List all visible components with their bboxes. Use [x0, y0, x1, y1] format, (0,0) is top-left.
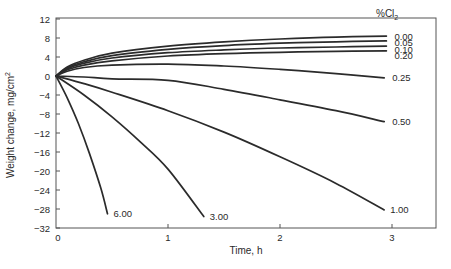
series-line-0-50	[56, 76, 384, 122]
series-label: 1.00	[390, 204, 409, 215]
y-tick-label: −16	[34, 147, 50, 158]
x-tick-label: 2	[277, 232, 282, 243]
y-tick-label: −8	[39, 109, 50, 120]
series-line-1-00	[56, 76, 384, 210]
y-tick-label: −32	[34, 223, 50, 234]
series-label: 0.50	[392, 116, 411, 127]
series-line-6-00	[56, 76, 108, 214]
y-tick-label: −20	[34, 166, 50, 177]
y-tick-label: −24	[34, 185, 50, 196]
series-label: 0.25	[392, 72, 411, 83]
x-axis-label: Time, h	[230, 245, 263, 256]
weight-change-chart: 12840−4−8−12−16−20−24−28−320123 0.000.05…	[0, 0, 451, 269]
y-tick-label: −4	[39, 90, 50, 101]
y-tick-label: 8	[45, 33, 50, 44]
y-tick-label: −12	[34, 128, 50, 139]
series-line-0-25	[56, 64, 384, 78]
y-tick-label: 0	[45, 71, 50, 82]
x-tick-label: 1	[165, 232, 170, 243]
y-tick-label: 12	[39, 14, 50, 25]
series-label: 3.00	[210, 211, 229, 222]
y-tick-label: −28	[34, 204, 50, 215]
legend-title: %Cl2	[376, 8, 398, 21]
plot-axes: 12840−4−8−12−16−20−24−28−320123	[34, 14, 436, 244]
series-label: 0.20	[394, 50, 413, 61]
y-axis-label: Weight change, mg/cm2	[4, 72, 16, 178]
y-tick-label: 4	[45, 52, 50, 63]
x-tick-label: 3	[389, 232, 394, 243]
x-tick-label: 0	[55, 232, 60, 243]
series-labels: 0.000.050.100.200.250.501.003.006.00	[114, 31, 413, 223]
series-lines	[56, 36, 386, 217]
series-label: 6.00	[114, 208, 132, 219]
